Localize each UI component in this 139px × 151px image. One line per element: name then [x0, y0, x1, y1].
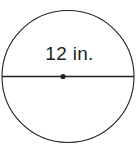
diameter-label: 12 in. — [0, 43, 139, 65]
center-point-dot — [60, 74, 65, 79]
circle-diagram: 12 in. — [0, 0, 139, 151]
circle-diagram-svg — [0, 0, 139, 151]
